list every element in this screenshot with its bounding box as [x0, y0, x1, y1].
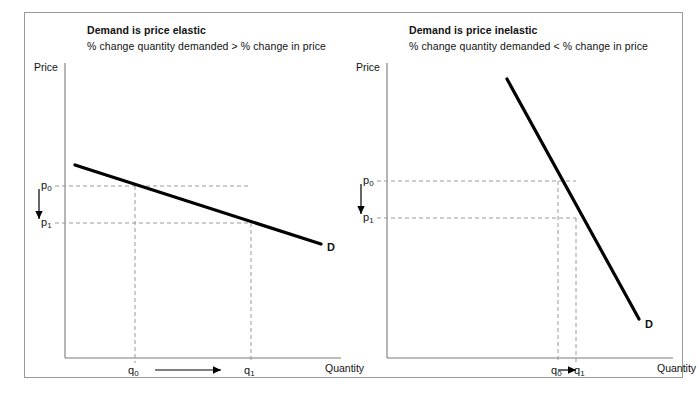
left-q0-tick-label: q0	[128, 364, 139, 376]
right-panel-title: Demand is price inelastic	[409, 24, 538, 36]
left-demand-curve-label: D	[327, 241, 335, 253]
left-q1-tick-label: q1	[244, 364, 255, 376]
figure-canvas: Demand is price elastic % change quantit…	[0, 0, 697, 402]
left-x-axis-label: Quantity	[325, 362, 364, 374]
right-y-axis-label: Price	[356, 61, 380, 73]
right-demand-curve-label: D	[645, 318, 653, 330]
left-panel-title: Demand is price elastic	[87, 24, 206, 36]
left-y-axis-label: Price	[34, 61, 58, 73]
left-p1-tick-label: p1	[41, 216, 52, 228]
left-p0-tick-label: p0	[41, 179, 52, 191]
left-demand-curve	[75, 165, 321, 244]
right-q0-tick-label: q0	[551, 364, 562, 376]
left-panel-subtitle: % change quantity demanded > % change in…	[87, 40, 326, 52]
right-x-axis-label: Quantity	[657, 362, 696, 374]
right-q1-tick-label: q1	[574, 364, 585, 376]
right-panel-subtitle: % change quantity demanded < % change in…	[409, 40, 648, 52]
right-p0-tick-label: p0	[363, 174, 374, 186]
figure-frame: Demand is price elastic % change quantit…	[24, 12, 683, 378]
right-p1-tick-label: p1	[363, 211, 374, 223]
right-demand-curve	[507, 79, 639, 319]
diagram-svg	[25, 13, 684, 379]
